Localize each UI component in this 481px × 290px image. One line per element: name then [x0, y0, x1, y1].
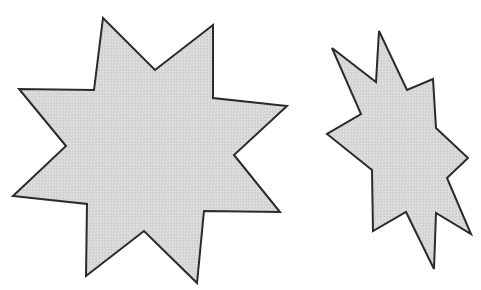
large-eight-point-star	[13, 18, 287, 283]
small-irregular-star	[327, 31, 471, 269]
diagram-canvas	[0, 0, 481, 290]
